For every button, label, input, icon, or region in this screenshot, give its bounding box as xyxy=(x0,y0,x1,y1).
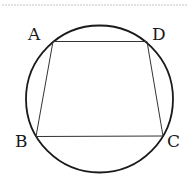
segment-DC xyxy=(147,42,163,137)
segment-BA xyxy=(36,42,53,137)
segment-CB xyxy=(36,136,163,137)
vertex-label-B: B xyxy=(15,131,28,151)
circumcircle xyxy=(26,26,173,173)
vertex-label-A: A xyxy=(27,24,41,44)
vertex-label-C: C xyxy=(167,131,180,151)
diagram-canvas: A D B C xyxy=(0,0,193,181)
vertex-label-D: D xyxy=(152,24,166,44)
